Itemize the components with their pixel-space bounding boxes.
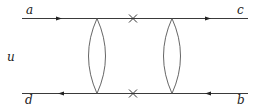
arrow-left-icon (205, 92, 211, 96)
feynman-diagram: a c u d b (0, 0, 253, 109)
arrow-left-icon (58, 92, 64, 96)
label-a: a (26, 3, 33, 17)
label-b: b (237, 93, 245, 107)
arrow-right-icon (205, 17, 211, 21)
right-lens-loop (164, 19, 181, 94)
arrow-right-icon (56, 17, 62, 21)
label-c: c (237, 3, 244, 17)
left-lens-loop (89, 19, 106, 94)
label-d: d (25, 93, 33, 107)
label-u: u (7, 50, 15, 64)
